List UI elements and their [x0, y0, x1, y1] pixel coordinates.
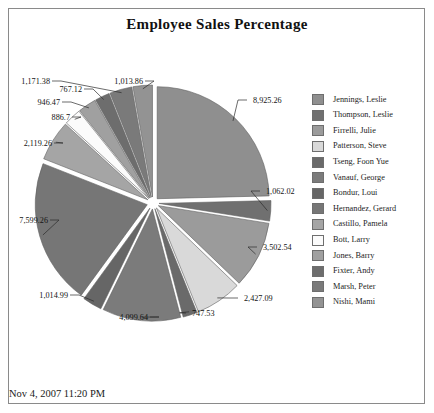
legend-item-label: Nishi, Mami [333, 298, 375, 306]
legend-item[interactable]: Jennings, Leslie [312, 92, 432, 108]
pie-slice-value-label: 1,062.02 [266, 187, 295, 196]
legend-color-swatch [312, 141, 324, 152]
legend-color-swatch [312, 172, 324, 183]
pie-slice-value-label: 946.47 [37, 98, 60, 107]
pie-slice-value-label: 767.12 [59, 85, 82, 94]
legend-item-label: Thompson, Leslie [333, 111, 393, 119]
legend-item-label: Jones, Barry [333, 252, 374, 260]
legend-item-label: Bondur, Loui [333, 189, 377, 197]
pie-slice-value-label: 8,925.26 [253, 96, 282, 105]
pie-slice-value-label: 747.53 [192, 309, 215, 318]
pie-slice-value-label: 1,013.86 [114, 77, 143, 86]
legend-color-swatch [312, 281, 324, 292]
legend-item[interactable]: Hernandez, Gerard [312, 201, 432, 217]
page-title: Employee Sales Percentage [0, 16, 434, 33]
legend-color-swatch [312, 94, 324, 105]
pie-slice-value-label: 2,119.26 [24, 139, 52, 148]
legend-item-label: Patterson, Steve [333, 142, 386, 150]
pie-chart-svg: 8,925.261,062.023,502.542,427.09747.534,… [8, 55, 298, 345]
legend-item-label: Firrelli, Julie [333, 127, 376, 135]
legend-item[interactable]: Firrelli, Julie [312, 123, 432, 139]
legend-color-swatch [312, 157, 324, 168]
legend-color-swatch [312, 188, 324, 199]
pie-chart-plot-area: 8,925.261,062.023,502.542,427.09747.534,… [8, 55, 298, 345]
legend-item[interactable]: Nishi, Mami [312, 295, 432, 311]
legend-item-label: Vanauf, George [333, 174, 385, 182]
legend-item[interactable]: Tseng, Foon Yue [312, 154, 432, 170]
pie-slice-value-label: 1,171.38 [21, 77, 50, 86]
pie-slice-value-label: 3,502.54 [263, 243, 292, 252]
pie-chart-report: Employee Sales Percentage 8,925.261,062.… [0, 0, 434, 413]
legend-item[interactable]: Fixter, Andy [312, 264, 432, 280]
chart-legend: Jennings, LeslieThompson, LeslieFirrelli… [312, 92, 432, 310]
legend-item-label: Tseng, Foon Yue [333, 158, 389, 166]
pie-slice-value-label: 2,427.09 [244, 294, 273, 303]
legend-color-swatch [312, 110, 324, 121]
legend-item-label: Hernandez, Gerard [333, 205, 396, 213]
legend-item-label: Jennings, Leslie [333, 96, 386, 104]
legend-item[interactable]: Vanauf, George [312, 170, 432, 186]
legend-item[interactable]: Castillo, Pamela [312, 217, 432, 233]
legend-item-label: Marsh, Peter [333, 283, 375, 291]
legend-item[interactable]: Marsh, Peter [312, 279, 432, 295]
legend-item[interactable]: Jones, Barry [312, 248, 432, 264]
legend-color-swatch [312, 250, 324, 261]
legend-color-swatch [312, 266, 324, 277]
legend-item[interactable]: Patterson, Steve [312, 139, 432, 155]
pie-slice-value-label: 1,014.99 [39, 291, 68, 300]
legend-item-label: Fixter, Andy [333, 267, 375, 275]
legend-color-swatch [312, 297, 324, 308]
legend-item[interactable]: Bott, Larry [312, 232, 432, 248]
report-timestamp: Nov 4, 2007 11:20 PM [9, 388, 105, 399]
legend-item[interactable]: Bondur, Loui [312, 186, 432, 202]
pie-label-leader-line [233, 100, 247, 121]
legend-color-swatch [312, 203, 324, 214]
legend-item-label: Castillo, Pamela [333, 220, 387, 228]
pie-slice-value-label: 7,599.26 [19, 216, 48, 225]
pie-slice-value-label: 886.7 [52, 113, 70, 122]
legend-color-swatch [312, 219, 324, 230]
legend-color-swatch [312, 125, 324, 136]
legend-item[interactable]: Thompson, Leslie [312, 108, 432, 124]
pie-slice-value-label: 4,099.64 [119, 313, 148, 322]
legend-item-label: Bott, Larry [333, 236, 370, 244]
legend-color-swatch [312, 235, 324, 246]
